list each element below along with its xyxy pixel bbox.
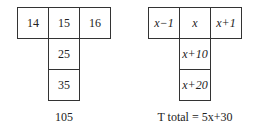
left-cell-top-2: 15 bbox=[48, 7, 80, 39]
left-cell-bottom: 35 bbox=[48, 69, 80, 101]
right-cell-top-3: x+1 bbox=[210, 7, 242, 39]
right-cell-bottom: x+20 bbox=[179, 69, 211, 101]
right-total: T total = 5x+30 bbox=[140, 110, 250, 125]
right-cell-top-2: x bbox=[179, 7, 211, 39]
left-cell-top-3: 16 bbox=[79, 7, 111, 39]
left-cell-top-1: 14 bbox=[17, 7, 49, 39]
left-cell-mid: 25 bbox=[48, 38, 80, 70]
right-cell-top-1: x−1 bbox=[148, 7, 180, 39]
left-total: 105 bbox=[40, 110, 88, 125]
right-cell-mid: x+10 bbox=[179, 38, 211, 70]
